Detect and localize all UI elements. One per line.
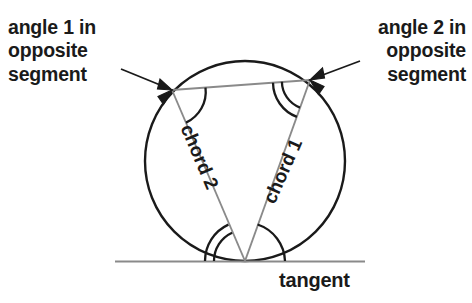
angle-2-vertex-arc-outer-icon	[273, 83, 297, 117]
tangent-left-arc-outer-icon	[205, 225, 228, 261]
leader-angle1-arrowhead-lower-icon	[158, 90, 172, 105]
tangent-label: tangent	[279, 268, 350, 292]
geometry-diagram: angle 1 in opposite segment angle 2 in o…	[0, 0, 472, 303]
angle-1-vertex-arc-icon	[186, 88, 206, 123]
leader-angle2-arrowhead-icon	[310, 68, 325, 80]
circle-shape	[145, 61, 345, 261]
angle-1-label: angle 1 in opposite segment	[8, 16, 96, 86]
angle-2-vertex-arc-inner-icon	[282, 82, 300, 108]
top-chord-line	[172, 80, 310, 90]
leader-angle1-arrowhead-icon	[158, 79, 173, 90]
angle-2-label: angle 2 in opposite segment	[378, 16, 466, 86]
